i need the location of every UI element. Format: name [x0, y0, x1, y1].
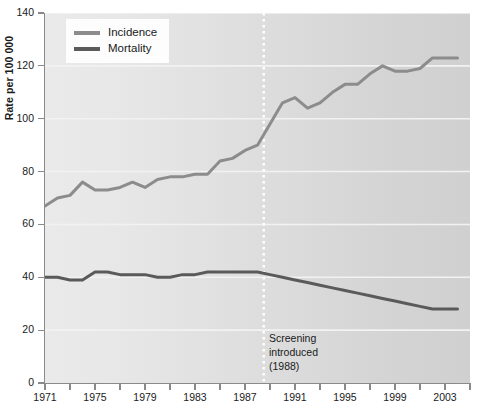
y-axis-title: Rate per 100 000: [0, 0, 18, 300]
x-tick-label-1975: 1975: [73, 392, 117, 403]
x-tick-1995: [344, 384, 345, 390]
x-tick-label-1999: 1999: [373, 392, 417, 403]
x-axis-line: [44, 383, 471, 384]
y-tick-100: [38, 118, 44, 119]
y-tick-20: [38, 330, 44, 331]
screening-annotation-line-1: Screening: [269, 331, 318, 345]
x-tick-1977: [119, 384, 120, 390]
y-tick-label-120: 120: [0, 60, 34, 71]
series-lines: [45, 58, 458, 309]
legend-label-mortality: Mortality: [108, 43, 151, 55]
x-tick-1985: [219, 384, 220, 390]
x-tick-label-1991: 1991: [273, 392, 317, 403]
y-tick-80: [38, 171, 44, 172]
plot-area: [45, 13, 470, 383]
x-tick-label-1979: 1979: [123, 392, 167, 403]
x-tick-label-1987: 1987: [223, 392, 267, 403]
y-tick-60: [38, 224, 44, 225]
y-tick-120: [38, 65, 44, 66]
legend-swatch-mortality: [74, 47, 100, 51]
x-tick-1981: [169, 384, 170, 390]
legend-item-mortality: Mortality: [74, 41, 157, 57]
x-tick-label-2003: 2003: [423, 392, 467, 403]
y-tick-40: [38, 277, 44, 278]
legend-item-incidence: Incidence: [74, 25, 157, 41]
x-tick-2005: [469, 384, 470, 390]
y-tick-label-100: 100: [0, 113, 34, 124]
y-axis-title-text: Rate per 100 000: [3, 36, 15, 121]
y-tick-label-40: 40: [0, 271, 34, 282]
x-tick-1983: [194, 384, 195, 390]
x-tick-1997: [369, 384, 370, 390]
screening-annotation-line-3: (1988): [269, 359, 318, 373]
x-tick-2001: [419, 384, 420, 390]
y-tick-0: [38, 382, 44, 383]
x-tick-label-1983: 1983: [173, 392, 217, 403]
y-tick-label-80: 80: [0, 166, 34, 177]
x-tick-1989: [269, 384, 270, 390]
y-tick-label-20: 20: [0, 324, 34, 335]
x-tick-1987: [244, 384, 245, 390]
x-tick-1999: [394, 384, 395, 390]
screening-annotation-line-2: introduced: [269, 345, 318, 359]
x-tick-label-1995: 1995: [323, 392, 367, 403]
series-line-incidence: [45, 58, 458, 206]
y-tick-label-140: 140: [0, 7, 34, 18]
chart-legend: Incidence Mortality: [66, 19, 169, 63]
x-tick-1979: [144, 384, 145, 390]
x-tick-2003: [444, 384, 445, 390]
y-axis-line: [44, 13, 45, 384]
plot-svg: [45, 13, 470, 383]
chart-figure: Rate per 100 000 020406080100120140 1971…: [0, 0, 487, 416]
screening-annotation: Screening introduced (1988): [269, 331, 318, 373]
y-tick-label-0: 0: [0, 377, 34, 388]
x-tick-1973: [69, 384, 70, 390]
legend-label-incidence: Incidence: [108, 27, 157, 39]
x-tick-label-1971: 1971: [23, 392, 67, 403]
y-tick-label-60: 60: [0, 218, 34, 229]
y-tick-140: [38, 12, 44, 13]
x-tick-1991: [294, 384, 295, 390]
legend-swatch-incidence: [74, 31, 100, 35]
x-tick-1975: [94, 384, 95, 390]
x-tick-1971: [44, 384, 45, 390]
x-tick-1993: [319, 384, 320, 390]
